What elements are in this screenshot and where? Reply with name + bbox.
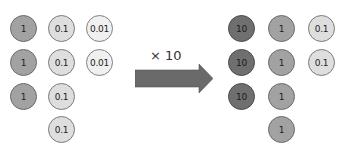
coin-label: 0.1 bbox=[55, 92, 68, 102]
coin-label: 0.01 bbox=[90, 58, 109, 68]
coin-0-1: 0.1 bbox=[48, 49, 75, 76]
coin-label: 1 bbox=[279, 24, 284, 34]
coin-label: 0.01 bbox=[90, 24, 109, 34]
arrow-label: × 10 bbox=[150, 48, 182, 63]
coin-label: 0.1 bbox=[315, 24, 328, 34]
coin-label: 10 bbox=[236, 24, 247, 34]
coin-1: 1 bbox=[268, 116, 295, 143]
coin-label: 10 bbox=[236, 58, 247, 68]
coin-label: 1 bbox=[21, 24, 26, 34]
coin-label: 10 bbox=[236, 92, 247, 102]
coin-10: 10 bbox=[228, 15, 255, 42]
coin-1: 1 bbox=[268, 15, 295, 42]
coin-0-01: 0.01 bbox=[86, 15, 113, 42]
coin-label: 0.1 bbox=[55, 58, 68, 68]
coin-label: 1 bbox=[279, 125, 284, 135]
right-arrow-icon bbox=[135, 64, 213, 93]
coin-label: 1 bbox=[21, 92, 26, 102]
coin-0-1: 0.1 bbox=[48, 15, 75, 42]
coin-label: 0.1 bbox=[55, 24, 68, 34]
coin-1: 1 bbox=[268, 49, 295, 76]
coin-0-1: 0.1 bbox=[48, 116, 75, 143]
coin-label: 0.1 bbox=[55, 125, 68, 135]
coin-label: 0.1 bbox=[315, 58, 328, 68]
coin-1: 1 bbox=[10, 15, 37, 42]
coin-label: 1 bbox=[279, 92, 284, 102]
coin-1: 1 bbox=[268, 83, 295, 110]
coin-0-1: 0.1 bbox=[48, 83, 75, 110]
coin-label: 1 bbox=[279, 58, 284, 68]
coin-label: 1 bbox=[21, 58, 26, 68]
coin-10: 10 bbox=[228, 49, 255, 76]
coin-0-01: 0.01 bbox=[86, 49, 113, 76]
coin-1: 1 bbox=[10, 83, 37, 110]
coin-1: 1 bbox=[10, 49, 37, 76]
coin-10: 10 bbox=[228, 83, 255, 110]
coin-0-1: 0.1 bbox=[308, 49, 335, 76]
coin-0-1: 0.1 bbox=[308, 15, 335, 42]
